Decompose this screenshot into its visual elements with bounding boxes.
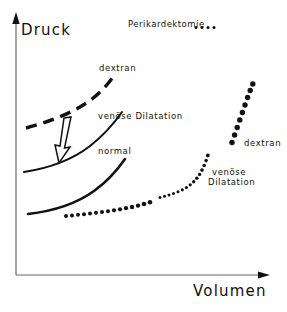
x-axis-label: Volumen [193,283,267,300]
series-label-venose-dilatation-right-line2: Dilatation [208,178,255,188]
right-arrow-icon [258,271,270,278]
series-label-venose-dilatation-left: venöse Dilatation [98,112,183,122]
hollow-down-arrow-icon [55,117,71,163]
pressure-volume-figure: Perikardektomie Druck Volumen dextran ve… [0,0,287,312]
series-dots-lower-left [64,200,152,218]
series-label-dextran-right: dextran [244,139,281,149]
series-label-venose-dilatation-right: venöseDilatation [212,168,255,188]
up-arrow-icon [12,12,19,24]
chart-title: Perikardektomie [128,20,205,30]
series-label-normal-left: normal [98,147,131,157]
axis-group [12,12,270,279]
series-dots-dextran-right [229,81,255,145]
series-dots-venose-dilatation-right [159,154,210,199]
chart-canvas [0,0,287,312]
series-label-dextran-left: dextran [99,64,136,74]
y-axis-label: Druck [21,22,71,39]
series-label-venose-dilatation-right-line1: venöse [212,167,246,177]
